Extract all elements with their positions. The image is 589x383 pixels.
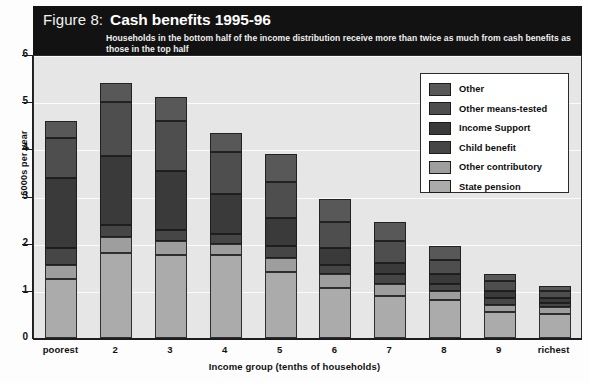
bar-segment-3-state-pension [155, 255, 187, 338]
y-tick-label-6: 6 [8, 48, 28, 59]
bar-segment-3-other-means-tested [155, 121, 187, 171]
legend-swatch-icon [429, 102, 451, 115]
bar-4 [210, 55, 242, 338]
legend-item-state-pension: State pension [429, 178, 568, 196]
y-tick-6 [22, 55, 32, 56]
figure-cash-benefits: Figure 8: Cash benefits 1995-96 Househol… [0, 0, 589, 383]
y-tick-label-1: 1 [8, 284, 28, 295]
bar-segment-8-other [429, 246, 461, 260]
bar-segment-2-child-benefit [100, 225, 132, 237]
bar-segment-7-other-contributory [374, 284, 406, 296]
bar-segment-8-state-pension [429, 300, 461, 338]
bar-segment-3-child-benefit [155, 230, 187, 242]
x-axis-title: Income group (tenths of households) [0, 361, 589, 372]
y-tick-3 [22, 197, 32, 198]
legend-item-other: Other [429, 80, 568, 98]
bar-segment-5-income-support [265, 218, 297, 246]
bar-segment-3-income-support [155, 171, 187, 230]
bar-segment-2-other [100, 83, 132, 102]
bar-segment-8-other-means-tested [429, 260, 461, 274]
bar-segment-7-child-benefit [374, 274, 406, 283]
bar-6 [319, 55, 351, 338]
y-tick-label-2: 2 [8, 237, 28, 248]
legend-item-label: Other [459, 84, 484, 94]
y-tick-2 [22, 244, 32, 245]
bar-segment-4-other-means-tested [210, 152, 242, 194]
bar-segment-4-state-pension [210, 255, 242, 338]
y-axis-title: £000s per year [19, 113, 29, 213]
bar-segment-7-other [374, 222, 406, 241]
legend-swatch-icon [429, 122, 451, 135]
bar-poorest [45, 55, 77, 338]
bar-segment-4-income-support [210, 194, 242, 234]
bar-segment-9-income-support [484, 291, 516, 298]
bar-7 [374, 55, 406, 338]
x-tick-label-9: 9 [471, 344, 526, 355]
figure-subtitle: Households in the bottom half of the inc… [106, 33, 576, 54]
legend-item-income-support: Income Support [429, 119, 568, 137]
bar-segment-9-other [484, 274, 516, 281]
bar-segment-poorest-other [45, 121, 77, 138]
y-tick-label-5: 5 [8, 95, 28, 106]
y-tick-5 [22, 102, 32, 103]
bar-segment-2-income-support [100, 156, 132, 224]
bar-segment-8-child-benefit [429, 284, 461, 291]
bar-segment-9-other-means-tested [484, 281, 516, 290]
bar-segment-9-other-contributory [484, 305, 516, 312]
bar-segment-poorest-income-support [45, 178, 77, 249]
title-line: Figure 8: Cash benefits 1995-96 [43, 11, 582, 30]
y-axis-line [32, 55, 33, 339]
bar-segment-2-other-contributory [100, 237, 132, 254]
bar-segment-5-child-benefit [265, 246, 297, 258]
x-tick-label-8: 8 [417, 344, 472, 355]
x-tick-label-6: 6 [307, 344, 362, 355]
x-tick-label-4: 4 [197, 344, 252, 355]
legend-item-other-contributory: Other contributory [429, 158, 568, 176]
figure-number: Figure 8: [43, 11, 103, 28]
bar-segment-6-other-means-tested [319, 222, 351, 248]
figure-title: Cash benefits 1995-96 [110, 11, 271, 29]
legend-swatch-icon [429, 141, 451, 154]
legend-swatch-icon [429, 180, 451, 193]
bar-segment-8-other-contributory [429, 291, 461, 300]
bar-segment-2-other-means-tested [100, 102, 132, 156]
bar-segment-7-other-means-tested [374, 241, 406, 262]
legend: OtherOther means-testedIncome SupportChi… [420, 73, 569, 193]
bar-segment-richest-child-benefit [539, 303, 571, 308]
bar-2 [100, 55, 132, 338]
legend-item-label: Child benefit [459, 143, 516, 153]
bar-segment-poorest-state-pension [45, 279, 77, 338]
bar-segment-7-income-support [374, 263, 406, 275]
legend-item-other-means-tested: Other means-tested [429, 100, 568, 118]
bar-segment-3-other [155, 97, 187, 121]
bar-segment-poorest-other-contributory [45, 265, 77, 279]
x-tick-label-7: 7 [362, 344, 417, 355]
y-tick-1 [22, 291, 32, 292]
x-tick-label-3: 3 [143, 344, 198, 355]
legend-item-label: Other contributory [459, 162, 542, 172]
bar-segment-5-other-means-tested [265, 182, 297, 217]
bar-5 [265, 55, 297, 338]
bar-segment-5-state-pension [265, 272, 297, 338]
legend-item-child-benefit: Child benefit [429, 139, 568, 157]
x-tick-label-richest: richest [526, 344, 581, 355]
bar-segment-6-child-benefit [319, 265, 351, 274]
bar-segment-7-state-pension [374, 296, 406, 338]
x-axis-line [33, 338, 582, 340]
title-banner: Figure 8: Cash benefits 1995-96 Househol… [33, 6, 582, 55]
x-tick-label-poorest: poorest [33, 344, 88, 355]
bar-segment-poorest-other-means-tested [45, 138, 77, 178]
bar-segment-9-state-pension [484, 312, 516, 338]
bar-segment-3-other-contributory [155, 241, 187, 255]
bar-segment-5-other-contributory [265, 258, 297, 272]
bar-segment-6-income-support [319, 248, 351, 265]
bar-segment-6-other [319, 199, 351, 223]
x-tick-label-5: 5 [252, 344, 307, 355]
legend-swatch-icon [429, 83, 451, 96]
legend-item-label: Income Support [459, 123, 530, 133]
y-tick-label-0: 0 [8, 331, 28, 342]
bar-segment-richest-income-support [539, 298, 571, 303]
bar-segment-8-income-support [429, 274, 461, 283]
bar-segment-2-state-pension [100, 253, 132, 338]
bar-segment-4-child-benefit [210, 234, 242, 243]
